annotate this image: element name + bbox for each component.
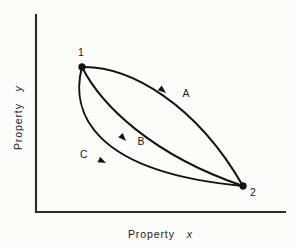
property-path-figure: 1 2 A B C Property x Property y bbox=[0, 0, 297, 247]
path-b-curve bbox=[82, 67, 243, 186]
state-label-1: 1 bbox=[78, 46, 84, 58]
x-axis-title-text: Property bbox=[128, 228, 175, 240]
figure-canvas: 1 2 A B C Property x Property y bbox=[0, 0, 297, 247]
y-axis-title: Property y bbox=[12, 85, 24, 150]
x-axis-variable: x bbox=[186, 228, 193, 240]
state-point-1 bbox=[79, 64, 86, 71]
x-axis-title: Property x bbox=[128, 228, 193, 240]
path-b-arrow-icon bbox=[118, 133, 128, 143]
path-c-curve bbox=[79, 67, 243, 186]
axes-group bbox=[36, 15, 285, 212]
y-axis-title-text: Property bbox=[12, 103, 24, 150]
path-a-curve bbox=[82, 67, 243, 186]
process-paths-group bbox=[79, 67, 243, 186]
y-axis-variable: y bbox=[12, 85, 24, 92]
path-c-arrow-icon bbox=[97, 157, 107, 166]
state-label-2: 2 bbox=[250, 186, 256, 198]
path-label-b: B bbox=[137, 135, 144, 147]
state-point-2 bbox=[240, 183, 247, 190]
path-label-a: A bbox=[182, 87, 189, 99]
path-label-c: C bbox=[80, 148, 88, 160]
path-labels-group: A B C bbox=[80, 87, 190, 160]
